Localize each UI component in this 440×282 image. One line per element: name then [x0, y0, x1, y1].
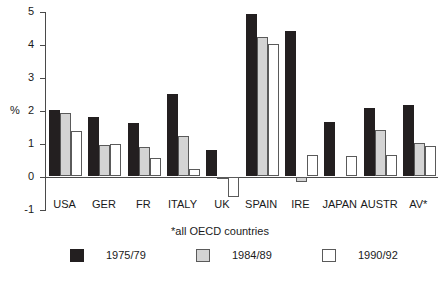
bar-ger-1975-79 — [88, 117, 99, 176]
bar-austr-1984-89 — [375, 130, 386, 176]
x-axis-label-usa: USA — [45, 198, 84, 210]
bar-japan-1975-79 — [324, 122, 335, 176]
bar-fr-1975-79 — [128, 123, 139, 176]
x-axis-label-spain: SPAIN — [242, 198, 281, 210]
bar-usa-1990-92 — [71, 131, 82, 176]
x-axis-label-ire: IRE — [281, 198, 320, 210]
bar-ire-1984-89 — [296, 177, 307, 182]
x-axis-label-uk: UK — [202, 198, 241, 210]
x-axis-label-fr: FR — [124, 198, 163, 210]
bar-ire-1975-79 — [285, 31, 296, 176]
bar-av-1975-79 — [403, 105, 414, 176]
y-axis-tick-label: 1 — [2, 138, 34, 149]
bar-spain-1984-89 — [257, 37, 268, 176]
y-axis-tick-label: -1 — [2, 204, 34, 215]
bar-ger-1984-89 — [99, 145, 110, 176]
bar-spain-1990-92 — [268, 44, 279, 176]
legend-swatch-1984-89 — [196, 249, 210, 262]
bar-ger-1990-92 — [110, 144, 121, 176]
bar-uk-1975-79 — [206, 150, 217, 176]
legend-label-1975-79: 1975/79 — [106, 249, 146, 262]
bar-japan-1990-92 — [346, 156, 357, 176]
legend-label-1984-89: 1984/89 — [232, 249, 272, 262]
bar-italy-1975-79 — [167, 94, 178, 177]
legend-swatch-1975-79 — [70, 249, 84, 262]
bar-usa-1975-79 — [49, 110, 60, 176]
legend-label-1990-92: 1990/92 — [358, 249, 398, 262]
bar-austr-1990-92 — [386, 155, 397, 176]
bar-ire-1990-92 — [307, 155, 318, 176]
legend-swatch-1990-92 — [322, 249, 336, 262]
bar-italy-1984-89 — [178, 136, 189, 176]
x-axis-label-austr: AUSTR — [359, 198, 398, 210]
y-axis-tick-label: 2 — [2, 105, 34, 116]
bar-fr-1990-92 — [150, 158, 161, 176]
chart-footnote: *all OECD countries — [0, 225, 440, 237]
bar-chart: % 543210-1 USAGERFRITALYUKSPAINIREJAPANA… — [0, 0, 440, 282]
bar-italy-1990-92 — [189, 169, 200, 176]
plot-area — [45, 12, 438, 210]
bar-usa-1984-89 — [60, 113, 71, 176]
bar-uk-1984-89 — [217, 177, 228, 179]
bar-uk-1990-92 — [228, 177, 239, 197]
x-axis-label-japan: JAPAN — [320, 198, 359, 210]
bar-austr-1975-79 — [364, 108, 375, 176]
x-axis-label-italy: ITALY — [163, 198, 202, 210]
bar-av-1984-89 — [414, 143, 425, 176]
x-axis-label-ger: GER — [84, 198, 123, 210]
bar-av-1990-92 — [425, 146, 436, 176]
chart-legend: 1975/791984/891990/92 — [70, 248, 400, 270]
bar-fr-1984-89 — [139, 147, 150, 176]
x-axis-label-av: AV* — [399, 198, 438, 210]
y-axis-tick — [40, 210, 46, 211]
y-axis-tick-label: 5 — [2, 6, 34, 17]
y-axis-tick-label: 4 — [2, 39, 34, 50]
y-axis-tick-label: 3 — [2, 72, 34, 83]
y-axis-tick-label: 0 — [2, 171, 34, 182]
bar-spain-1975-79 — [246, 14, 257, 176]
